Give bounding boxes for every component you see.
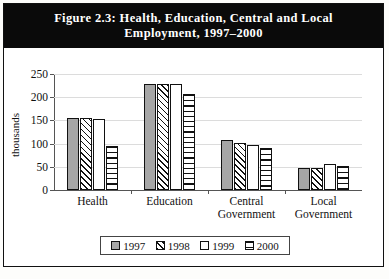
bar xyxy=(170,84,183,190)
legend-swatch-1997-icon xyxy=(111,241,120,250)
x-axis-category-label: LocalGovernment xyxy=(285,195,362,220)
bar xyxy=(247,145,260,190)
legend-swatch-1998-icon xyxy=(156,241,165,250)
y-axis-tick-label: 200 xyxy=(31,91,48,103)
legend-item: 1999 xyxy=(200,240,234,252)
figure-screenshot: Figure 2.3: Health, Education, Central a… xyxy=(0,0,389,279)
bar xyxy=(298,168,311,190)
bar xyxy=(93,119,106,190)
y-axis-tick-label: 250 xyxy=(31,68,48,80)
legend-item: 1998 xyxy=(156,240,190,252)
y-axis-tick-label: 100 xyxy=(31,138,48,150)
y-axis-tick xyxy=(50,190,54,191)
bar xyxy=(221,140,234,190)
bar-group xyxy=(298,74,350,190)
bar-group xyxy=(144,74,196,190)
y-axis-tick xyxy=(50,167,54,168)
figure-title-band: Figure 2.3: Health, Education, Central a… xyxy=(4,4,383,48)
legend-swatch-1999-icon xyxy=(200,241,209,250)
y-axis-tick-label: 150 xyxy=(31,114,48,126)
x-axis-category-label: CentralGovernment xyxy=(208,195,285,220)
bar xyxy=(324,164,337,190)
figure-frame: Figure 2.3: Health, Education, Central a… xyxy=(3,3,384,267)
legend-item: 1997 xyxy=(111,240,145,252)
legend-label: 1998 xyxy=(168,240,190,252)
chart-plot-area: thousands 050100150200250 HealthEducatio… xyxy=(4,48,383,267)
legend-label: 2000 xyxy=(257,240,279,252)
y-axis-line xyxy=(54,74,55,191)
bar xyxy=(183,94,196,191)
legend-item: 2000 xyxy=(245,240,279,252)
figure-title-line2: Employment, 1997–2000 xyxy=(124,26,263,40)
bar xyxy=(260,148,273,190)
y-axis-tick xyxy=(50,97,54,98)
y-axis-tick-label: 50 xyxy=(37,161,49,173)
bar-group xyxy=(67,74,119,190)
figure-number: Figure 2.3: xyxy=(54,11,116,25)
bar xyxy=(67,118,80,190)
bar xyxy=(337,166,350,190)
bar xyxy=(80,118,93,190)
y-axis-label: thousands xyxy=(9,143,21,157)
y-axis-tick xyxy=(50,144,54,145)
bar xyxy=(311,168,324,190)
bar-group xyxy=(221,74,273,190)
legend-label: 1997 xyxy=(123,240,145,252)
y-axis-tick-label: 0 xyxy=(42,184,48,196)
x-axis-tick xyxy=(131,190,132,194)
chart-axes: 050100150200250 xyxy=(54,74,362,190)
x-axis-tick xyxy=(285,190,286,194)
page-title: Figure 2.3: Health, Education, Central a… xyxy=(54,11,333,41)
x-axis-category-label: Education xyxy=(131,195,208,208)
bar xyxy=(106,146,119,190)
x-axis-category-label: Health xyxy=(54,195,131,208)
y-axis-tick xyxy=(50,74,54,75)
bar xyxy=(144,84,157,190)
legend-swatch-2000-icon xyxy=(245,241,254,250)
x-axis-tick xyxy=(208,190,209,194)
bar xyxy=(234,143,247,190)
chart-legend: 1997 1998 1999 2000 xyxy=(100,236,290,255)
legend-label: 1999 xyxy=(212,240,234,252)
y-axis-tick xyxy=(50,120,54,121)
figure-title-line1: Health, Education, Central and Local xyxy=(120,11,333,25)
bar xyxy=(157,84,170,190)
